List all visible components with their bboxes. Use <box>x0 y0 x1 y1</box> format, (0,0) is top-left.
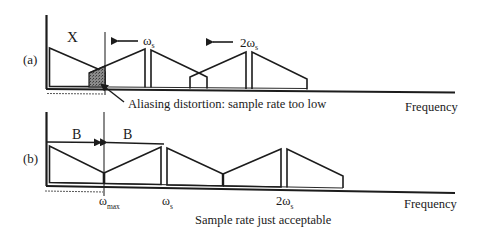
panel-b-caption: Sample rate just acceptable <box>195 213 332 227</box>
bandwidth-arrow-right <box>107 143 164 145</box>
aliasing-annotation: Aliasing distortion: sample rate too low <box>128 97 326 111</box>
image-2-lower-sideband <box>199 52 246 89</box>
image-2-upper-sideband <box>252 52 307 90</box>
image-2-lower-sideband-b <box>223 149 281 187</box>
baseband-spectrum-b <box>50 146 105 184</box>
ws-label-a: ωs <box>143 33 155 50</box>
bandwidth-arrow-left <box>47 142 101 143</box>
panel-b-axis-label: Frequency <box>404 197 458 211</box>
ws-label-b: ωs <box>162 194 173 211</box>
bandwidth-label-right: B <box>123 127 132 142</box>
sampling-aliasing-diagram: (a) X ωs 2ωs <box>0 0 478 244</box>
panel-a-axis-label: Frequency <box>405 100 459 114</box>
image-overlap-pentagon <box>190 73 207 89</box>
two-ws-label-a: 2ωs <box>240 35 258 52</box>
wmax-label: ωmax <box>99 194 120 211</box>
signal-label-x: X <box>67 29 78 45</box>
image-1-upper-sideband-b <box>167 148 223 186</box>
panel-a-bandwidth-underline <box>47 94 104 95</box>
panel-a-tag: (a) <box>23 52 37 67</box>
bandwidth-label-left: B <box>72 127 81 142</box>
image-1-lower-sideband-b <box>104 147 161 185</box>
image-2-upper-sideband-b <box>287 149 343 188</box>
panel-b-bandwidth-underline <box>45 191 103 192</box>
panel-a: (a) X ωs 2ωs <box>23 15 459 114</box>
image-1-upper-sideband <box>151 50 199 88</box>
panel-b: (b) B B ωmax ωs 2ωs Fr <box>23 112 458 227</box>
panel-b-tag: (b) <box>23 151 38 166</box>
two-ws-label-b: 2ωs <box>276 194 293 211</box>
